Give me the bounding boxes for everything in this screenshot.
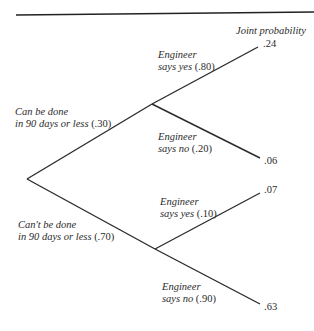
prob-value: (.90) (196, 293, 216, 304)
label-text: in 90 days or less (18, 231, 92, 242)
label-line2: says yes (.10) (160, 208, 217, 220)
label-lower-yes: Engineer says yes (.10) (160, 196, 217, 220)
prob-value: (.10) (197, 208, 217, 219)
label-text: in 90 days or less (15, 118, 89, 129)
label-upper-no: Engineer says no (.20) (158, 131, 212, 155)
label-cant-be-done: Can't be done in 90 days or less (.70) (18, 219, 114, 243)
label-line2: says no (.90) (162, 293, 216, 305)
label-can-be-done-line1: Can be done (15, 106, 111, 118)
label-cant-be-done-line1: Can't be done (18, 219, 114, 231)
label-text: says no (158, 143, 189, 154)
joint-value-lower-no: .63 (264, 301, 277, 313)
label-line1: Engineer (162, 281, 216, 293)
top-rule (16, 12, 314, 15)
label-line2: says no (.20) (158, 143, 212, 155)
joint-value-upper-yes: .24 (263, 38, 276, 50)
label-line1: Engineer (158, 131, 212, 143)
joint-value-upper-no: .06 (264, 155, 277, 167)
prob-value: (.30) (91, 118, 111, 129)
label-line1: Engineer (160, 196, 217, 208)
label-text: says yes (158, 61, 192, 72)
label-upper-yes: Engineer says yes (.80) (158, 49, 215, 73)
label-cant-be-done-line2: in 90 days or less (.70) (18, 231, 114, 243)
prob-value: (.70) (94, 231, 114, 242)
prob-value: (.20) (192, 143, 212, 154)
label-lower-no: Engineer says no (.90) (162, 281, 216, 305)
label-text: says no (162, 293, 193, 304)
prob-value: (.80) (195, 61, 215, 72)
label-text: says yes (160, 208, 194, 219)
joint-value-lower-yes: .07 (264, 184, 277, 196)
label-line2: says yes (.80) (158, 61, 215, 73)
label-can-be-done-line2: in 90 days or less (.30) (15, 118, 111, 130)
joint-probability-header: Joint probability (236, 25, 306, 37)
label-can-be-done: Can be done in 90 days or less (.30) (15, 106, 111, 130)
label-line1: Engineer (158, 49, 215, 61)
